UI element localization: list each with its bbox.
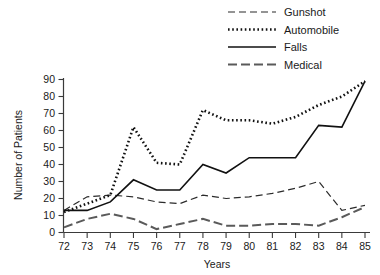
x-tick-label: 85 [359,240,371,252]
y-axis-ticks [59,80,64,233]
y-tick-label: 20 [43,192,55,204]
x-tick-label: 83 [313,240,325,252]
y-tick-label: 70 [43,107,55,119]
x-tick-label: 73 [81,240,93,252]
y-axis-title: Number of Patients [12,110,24,200]
y-tick-label: 30 [43,175,55,187]
y-tick-label: 80 [43,90,55,102]
x-axis-ticks [64,233,365,239]
x-tick-label: 82 [290,240,302,252]
legend-label-gunshot: Gunshot [284,6,326,18]
x-tick-label: 76 [151,240,163,252]
y-tick-label: 60 [43,124,55,136]
legend-label-medical: Medical [284,59,322,71]
x-tick-label: 79 [220,240,232,252]
x-axis-tick-labels: 7273747576777879808182838485 [58,240,371,252]
legend-label-automobile: Automobile [284,24,339,36]
legend: GunshotAutomobileFallsMedical [228,6,339,71]
line-chart-figure: 0102030405060708090 72737475767778798081… [0,0,380,275]
x-tick-label: 78 [197,240,209,252]
series-line-automobile [64,81,365,212]
y-tick-label: 10 [43,209,55,221]
y-tick-label: 40 [43,158,55,170]
series-line-gunshot [64,182,365,211]
y-tick-label: 50 [43,141,55,153]
series-line-falls [64,81,365,210]
x-tick-label: 80 [243,240,255,252]
y-tick-label: 0 [49,226,55,238]
x-tick-label: 72 [58,240,70,252]
y-axis-tick-labels: 0102030405060708090 [43,73,55,238]
legend-label-falls: Falls [284,41,308,53]
x-tick-label: 77 [174,240,186,252]
x-tick-label: 84 [336,240,348,252]
x-tick-label: 75 [128,240,140,252]
y-tick-label: 90 [43,73,55,85]
data-series-group [64,81,365,229]
x-axis-title: Years [204,258,230,270]
x-tick-label: 74 [104,240,116,252]
series-line-medical [64,207,365,229]
x-tick-label: 81 [267,240,279,252]
